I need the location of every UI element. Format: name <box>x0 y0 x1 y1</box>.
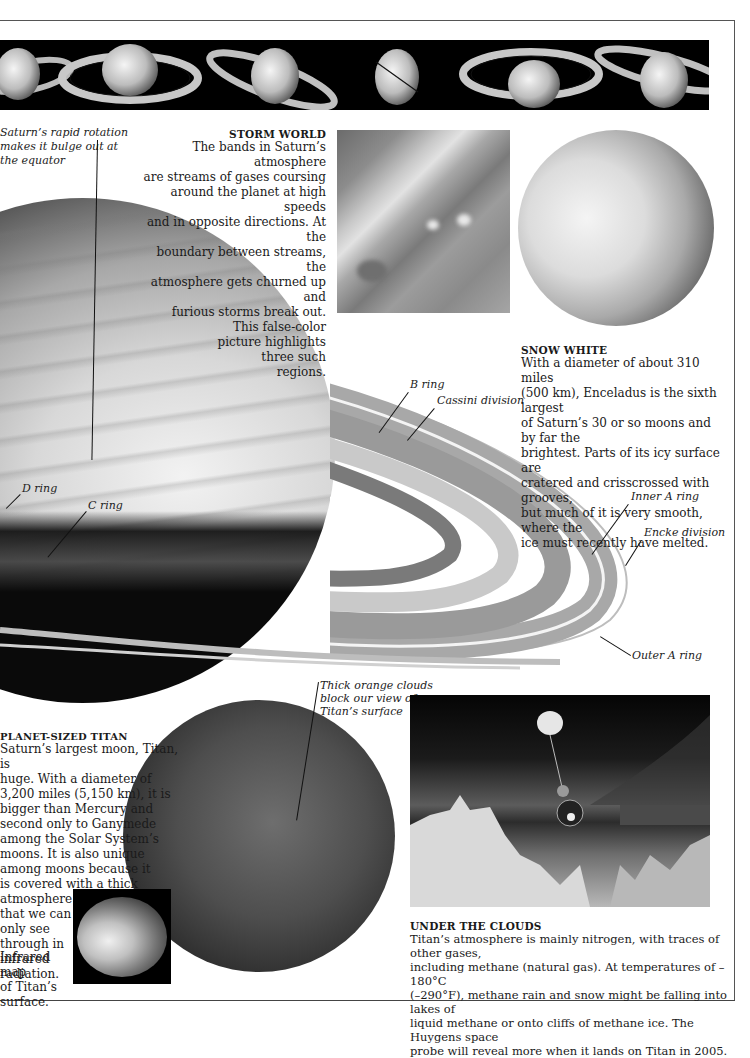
saturn-tilt-strip <box>0 40 709 110</box>
d-ring-label: D ring <box>22 482 57 495</box>
storm-false-color-image <box>337 130 510 313</box>
b-ring-label: B ring <box>410 378 444 391</box>
under-the-clouds-heading: UNDER THE CLOUDS <box>410 920 730 932</box>
outer-a-ring-label: Outer A ring <box>632 649 702 662</box>
storm-world-body: The bands in Saturn’s atmosphere are str… <box>140 140 326 380</box>
snow-white-body: With a diameter of about 310 miles (500 … <box>521 356 726 551</box>
enceladus-moon-image <box>518 130 714 326</box>
cassini-division-label: Cassini division <box>437 394 524 407</box>
snow-white-heading: SNOW WHITE <box>521 344 726 356</box>
infrared-map-caption: Infrared map of Titan’s surface. <box>0 950 72 1010</box>
page-right-rule <box>734 20 735 1000</box>
page-top-rule <box>0 20 735 21</box>
under-the-clouds-body: Titan’s atmosphere is mainly nitrogen, w… <box>410 932 730 1058</box>
c-ring-label: C ring <box>88 499 123 512</box>
planet-sized-titan-heading: PLANET-SIZED TITAN <box>0 731 180 742</box>
saturn-views-image <box>0 40 709 110</box>
huygens-probe-illustration <box>410 695 710 907</box>
titan-infrared-map-image <box>73 889 171 984</box>
bulge-label: Saturn’s rapid rotation makes it bulge o… <box>0 126 128 168</box>
snow-white-section: SNOW WHITE With a diameter of about 310 … <box>521 344 726 551</box>
under-the-clouds-section: UNDER THE CLOUDS Titan’s atmosphere is m… <box>410 920 730 1058</box>
storm-world-section: STORM WORLD The bands in Saturn’s atmosp… <box>140 128 326 380</box>
storm-world-heading: STORM WORLD <box>140 128 326 140</box>
